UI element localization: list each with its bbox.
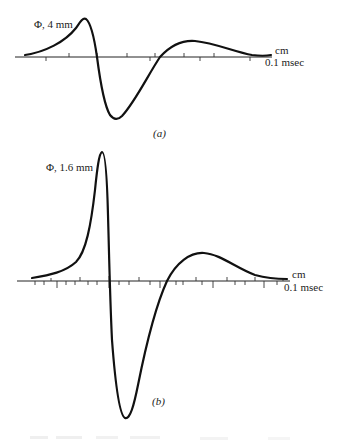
panel-b-waveform [32, 152, 287, 418]
panel-a-waveform [25, 19, 271, 119]
panel-b-ticks [35, 276, 283, 288]
panel-b-ylabel: Φ, 1.6 mm [46, 161, 94, 173]
panel-a-caption: (a) [153, 127, 166, 140]
panel-b: Φ, 1.6 mm cm 0.1 msec (b) [17, 152, 323, 418]
panel-a: Φ, 4 mm cm 0.1 msec (a) [15, 18, 304, 140]
panel-a-unit-top: cm [275, 44, 289, 56]
panel-b-unit-top: cm [292, 268, 306, 280]
panel-b-caption: (b) [152, 395, 165, 408]
panel-a-ylabel: Φ, 4 mm [34, 18, 73, 30]
panel-b-unit-bottom: 0.1 msec [284, 281, 323, 293]
figure: Φ, 4 mm cm 0.1 msec (a) [0, 0, 339, 448]
figure-caption-faded [30, 436, 290, 440]
panel-a-unit-bottom: 0.1 msec [265, 56, 304, 68]
